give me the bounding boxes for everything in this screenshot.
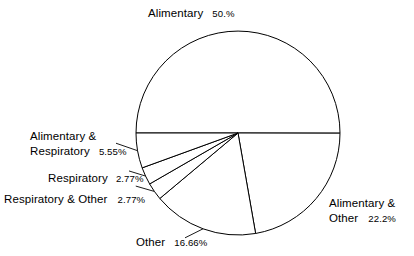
slice-label-other-name: Other bbox=[136, 236, 165, 248]
slice-label-respiratory-name: Respiratory bbox=[48, 172, 108, 184]
slice-label-alimentary-other: Alimentary & Other22.2% bbox=[329, 196, 396, 226]
slice-label-alimentary-other-percent: 22.2% bbox=[368, 213, 396, 224]
slice-label-respiratory-other-percent: 2.77% bbox=[118, 194, 146, 205]
slice-label-respiratory: Respiratory2.77% bbox=[48, 171, 144, 187]
slice-label-alimentary-name: Alimentary bbox=[148, 7, 203, 19]
slice-label-alimentary-respiratory: Alimentary & Respiratory5.55% bbox=[30, 129, 127, 159]
slice-label-alimentary: Alimentary50.% bbox=[148, 6, 235, 22]
slice-label-alimentary-other-name-line1: Alimentary & bbox=[329, 196, 396, 211]
pie-slice-alimentary bbox=[136, 31, 340, 133]
slice-label-respiratory-other-name: Respiratory & Other bbox=[4, 193, 108, 205]
slice-label-respiratory-other: Respiratory & Other2.77% bbox=[4, 192, 145, 208]
slice-label-alimentary-percent: 50.% bbox=[212, 8, 234, 19]
slice-label-alimentary-respiratory-name-line1: Alimentary & bbox=[30, 129, 127, 144]
slice-label-alimentary-respiratory-name-line2: Respiratory bbox=[30, 145, 90, 157]
slice-label-other: Other16.66% bbox=[136, 235, 207, 251]
slice-label-alimentary-other-name-line2: Other bbox=[329, 212, 358, 224]
pie-chart-figure: Alimentary50.% Alimentary & Other22.2% O… bbox=[0, 0, 414, 256]
slice-label-other-percent: 16.66% bbox=[174, 237, 207, 248]
slice-label-respiratory-percent: 2.77% bbox=[116, 173, 144, 184]
pie-slices bbox=[136, 31, 340, 235]
slice-label-alimentary-respiratory-percent: 5.55% bbox=[99, 146, 127, 157]
